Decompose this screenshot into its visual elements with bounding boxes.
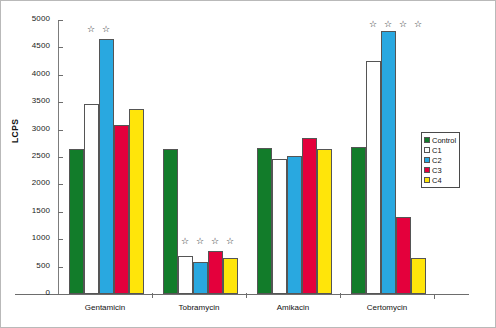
bar-c3 [114,125,129,294]
bar-c1 [84,104,99,294]
y-axis-tick-mark [58,294,63,295]
bar-group-bars [59,20,153,294]
bar-c4 [223,258,238,294]
y-axis-tick-label: 4000 [32,69,50,78]
bar-group: ☆☆☆☆☆ [153,20,247,294]
bar-chart-figure: LCPS 05001000150020002500300035004000450… [0,0,496,328]
x-axis-label-certomycin: Certomycin [340,303,434,312]
bar-group: ☆☆☆☆☆ [59,20,153,294]
bar-c3 [208,251,223,294]
bar-control [163,149,178,294]
legend-item-c4: C4 [424,175,456,185]
y-axis-tick-label: 5000 [32,14,50,23]
legend-swatch-icon [424,177,430,183]
x-axis-line [15,294,469,295]
y-axis-tick-label: 3000 [32,124,50,133]
plot-area: ☆☆☆☆☆☆☆☆☆☆☆☆☆☆☆ [59,20,435,294]
legend-item-c3: C3 [424,165,456,175]
legend-item-control: Control [424,135,456,145]
bar-c1 [366,61,381,294]
y-axis-tick-label: 4500 [32,41,50,50]
bar-c3 [396,217,411,294]
y-axis-tick-label: 0 [45,288,50,297]
x-axis-label-tobramycin: Tobramycin [152,303,246,312]
x-axis-end-tick [434,294,435,299]
x-axis-label-amikacin: Amikacin [246,303,340,312]
x-axis-label-gentamicin: Gentamicin [58,303,152,312]
bar-group-bars [153,20,247,294]
bar-control [257,148,272,294]
y-axis-tick-label: 2500 [32,151,50,160]
y-axis-tick-label: 3500 [32,96,50,105]
y-axis-tick-label: 500 [36,261,50,270]
legend-swatch-icon [424,147,430,153]
bar-group-bars [247,20,341,294]
bar-c2 [193,262,208,294]
legend-item-label: Control [432,136,456,145]
chart-legend: ControlC1C2C3C4 [421,132,460,188]
legend-swatch-icon [424,157,430,163]
legend-item-label: C1 [432,146,442,155]
legend-item-label: C3 [432,166,442,175]
legend-item-c2: C2 [424,155,456,165]
bar-c4 [317,149,332,294]
bar-control [351,147,366,294]
legend-item-c1: C1 [424,145,456,155]
bar-c2 [381,31,396,294]
bar-c2 [99,39,114,294]
legend-swatch-icon [424,167,430,173]
bar-group [247,20,341,294]
y-axis-tick-label: 2000 [32,178,50,187]
bar-c4 [411,258,426,294]
bar-c1 [178,256,193,294]
bar-control [69,149,84,294]
y-axis-title: LCPS [10,119,20,143]
legend-swatch-icon [424,137,430,143]
bar-c2 [287,156,302,294]
bar-c3 [302,138,317,294]
bar-c4 [129,109,144,294]
legend-item-label: C2 [432,156,442,165]
y-axis-tick-label: 1500 [32,206,50,215]
legend-item-label: C4 [432,176,442,185]
y-axis-tick-label: 1000 [32,233,50,242]
bar-c1 [272,159,287,294]
